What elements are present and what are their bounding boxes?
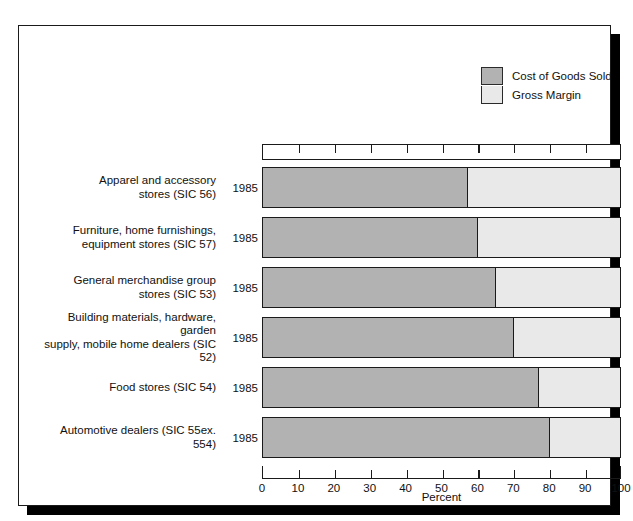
x-tick-80 [550, 470, 551, 478]
bar-row[interactable] [262, 417, 621, 458]
bar-segment-gross-margin[interactable] [539, 368, 620, 407]
category-year-label: 1985 [224, 332, 258, 344]
bar-group [262, 167, 621, 458]
legend-label-gross-margin: Gross Margin [512, 89, 581, 101]
figure-drop-shadow-bottom [27, 506, 620, 515]
category-label-row: Apparel and accessorystores (SIC 56)1985 [43, 167, 258, 208]
bar-segment-gross-margin[interactable] [496, 268, 620, 307]
top-tick-40 [407, 145, 408, 153]
category-label-row: Furniture, home furnishings,equipment st… [43, 217, 258, 258]
bar-row[interactable] [262, 167, 621, 208]
category-label: Furniture, home furnishings,equipment st… [73, 224, 216, 251]
x-tick-20 [335, 470, 336, 478]
category-label: Food stores (SIC 54) [109, 381, 216, 395]
bar-segment-cost-of-goods-sold[interactable] [263, 268, 496, 307]
bar-row[interactable] [262, 367, 621, 408]
bar-row[interactable] [262, 317, 621, 358]
x-tick-40 [407, 470, 408, 478]
bar-segment-gross-margin[interactable] [478, 218, 620, 257]
category-label: General merchandise groupstores (SIC 53) [73, 274, 216, 301]
category-year-label: 1985 [224, 432, 258, 444]
top-tick-60 [478, 145, 479, 153]
category-year-label: 1985 [224, 232, 258, 244]
plot-area: 0102030405060708090100 [262, 144, 621, 498]
x-tick-10 [299, 470, 300, 478]
x-tick-70 [514, 470, 515, 478]
top-tick-50 [443, 145, 444, 153]
top-tick-30 [371, 145, 372, 153]
bar-segment-cost-of-goods-sold[interactable] [263, 368, 539, 407]
category-label: Automotive dealers (SIC 55ex. 554) [43, 424, 216, 451]
x-axis-title: Percent [262, 491, 621, 503]
bar-segment-cost-of-goods-sold[interactable] [263, 418, 550, 457]
top-tick-20 [335, 145, 336, 153]
category-label: Building materials, hardware, gardensupp… [43, 311, 216, 365]
category-year-label: 1985 [224, 282, 258, 294]
x-tick-90 [586, 470, 587, 478]
bar-segment-gross-margin[interactable] [550, 418, 620, 457]
top-tick-80 [550, 145, 551, 153]
legend-swatch-cost-of-goods-sold [481, 67, 503, 85]
top-tick-10 [299, 145, 300, 153]
top-tick-70 [514, 145, 515, 153]
figure-root: Cost of Goods Sold Gross Margin Apparel … [0, 0, 633, 521]
category-year-label: 1985 [224, 182, 258, 194]
x-tick-50 [443, 470, 444, 478]
top-tick-90 [586, 145, 587, 153]
category-label: Apparel and accessorystores (SIC 56) [99, 174, 216, 201]
chart-legend: Cost of Goods Sold Gross Margin [481, 66, 621, 104]
category-label-row: Building materials, hardware, gardensupp… [43, 317, 258, 358]
legend-entry-cost-of-goods-sold: Cost of Goods Sold [481, 66, 621, 85]
category-label-column: Apparel and accessorystores (SIC 56)1985… [43, 167, 258, 467]
bar-segment-cost-of-goods-sold[interactable] [263, 318, 514, 357]
legend-swatch-gross-margin [481, 86, 503, 104]
bar-segment-gross-margin[interactable] [514, 318, 620, 357]
category-label-row: Food stores (SIC 54)1985 [43, 367, 258, 408]
category-label-row: General merchandise groupstores (SIC 53)… [43, 267, 258, 308]
top-tick-strip [262, 144, 621, 160]
legend-label-cost-of-goods-sold: Cost of Goods Sold [512, 70, 612, 82]
bar-segment-cost-of-goods-sold[interactable] [263, 168, 468, 207]
x-axis-line [262, 466, 621, 479]
bar-row[interactable] [262, 217, 621, 258]
x-tick-60 [478, 470, 479, 478]
category-year-label: 1985 [224, 382, 258, 394]
legend-entry-gross-margin: Gross Margin [481, 85, 621, 104]
bar-segment-cost-of-goods-sold[interactable] [263, 218, 478, 257]
figure-frame: Cost of Goods Sold Gross Margin Apparel … [18, 25, 611, 506]
bar-segment-gross-margin[interactable] [468, 168, 620, 207]
x-tick-30 [371, 470, 372, 478]
category-label-row: Automotive dealers (SIC 55ex. 554)1985 [43, 417, 258, 458]
bar-row[interactable] [262, 267, 621, 308]
